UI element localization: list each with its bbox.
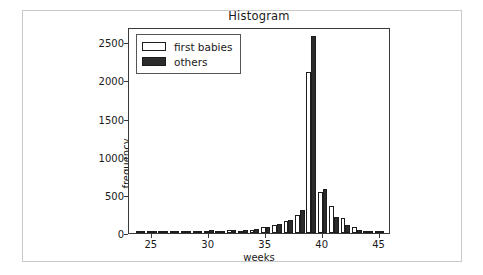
x-axis-label: weeks xyxy=(128,252,390,263)
x-tick-mark xyxy=(322,234,323,238)
histogram-bar xyxy=(254,229,259,233)
x-tick-mark xyxy=(379,234,380,238)
histogram-bar xyxy=(163,231,168,233)
histogram-bar xyxy=(220,231,225,233)
y-tick-label: 2500 xyxy=(99,38,124,49)
x-tick-label: 30 xyxy=(201,239,214,250)
histogram-bar xyxy=(357,230,362,233)
histogram-bar xyxy=(209,230,214,234)
histogram-bar xyxy=(368,231,373,233)
x-tick-label: 35 xyxy=(258,239,271,250)
histogram-bar xyxy=(300,210,305,233)
histogram-bar xyxy=(380,231,385,233)
histogram-figure: Histogram frequency 05001000150020002500… xyxy=(0,0,483,275)
y-tick-label: 1500 xyxy=(99,114,124,125)
legend-item: first babies xyxy=(142,39,232,54)
histogram-bar xyxy=(232,230,237,233)
x-axis-tick-labels: 2530354045 xyxy=(128,239,390,253)
x-tick-label: 45 xyxy=(372,239,385,250)
y-axis-tick-labels: 05001000150020002500 xyxy=(92,28,124,234)
x-tick-label: 25 xyxy=(144,239,157,250)
histogram-bar xyxy=(334,217,339,233)
histogram-bar xyxy=(266,227,271,233)
histogram-bar xyxy=(323,189,328,233)
histogram-bar xyxy=(152,231,157,233)
histogram-bar xyxy=(197,231,202,233)
legend-label: first babies xyxy=(174,41,232,53)
histogram-bar xyxy=(140,231,145,233)
x-tick-mark xyxy=(265,234,266,238)
x-tick-mark xyxy=(151,234,152,238)
y-axis-label-wrapper: frequency xyxy=(74,70,88,190)
x-tick-mark xyxy=(208,234,209,238)
x-tick-label: 40 xyxy=(315,239,328,250)
histogram-bar xyxy=(288,220,293,233)
histogram-bar xyxy=(186,231,191,233)
histogram-bar xyxy=(311,36,316,233)
chart-title: Histogram xyxy=(128,9,390,23)
plot-axes: first babiesothers xyxy=(128,28,390,234)
chart-legend: first babiesothers xyxy=(136,34,241,74)
legend-item: others xyxy=(142,54,232,69)
y-tick-label: 1000 xyxy=(99,152,124,163)
y-tick-label: 500 xyxy=(105,190,124,201)
x-axis-tick-marks xyxy=(128,234,390,238)
histogram-bar xyxy=(175,231,180,233)
legend-swatch-first xyxy=(142,42,166,51)
histogram-bar xyxy=(345,225,350,233)
histogram-bar xyxy=(243,230,248,233)
legend-label: others xyxy=(174,56,207,68)
legend-swatch-others xyxy=(142,57,166,66)
histogram-bar xyxy=(277,224,282,233)
y-tick-label: 2000 xyxy=(99,76,124,87)
